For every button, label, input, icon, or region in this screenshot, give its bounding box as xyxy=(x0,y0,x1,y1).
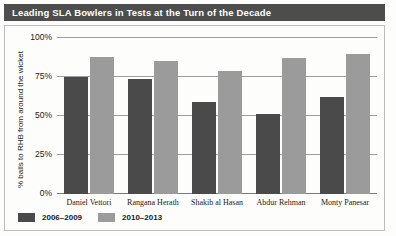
y-axis-tick-label: 75% xyxy=(35,71,52,81)
y-axis-tick-label: 50% xyxy=(35,110,52,120)
bar-group: Monty Panesar xyxy=(313,38,377,194)
bar[interactable] xyxy=(192,102,216,194)
chart-legend: 2006–20092010–2013 xyxy=(18,213,162,222)
bar[interactable] xyxy=(128,79,152,194)
bar-group: Shakib al Hasan xyxy=(185,38,249,194)
y-axis-title: % balls to RHB from around the wicket xyxy=(16,38,30,188)
legend-swatch xyxy=(98,213,115,222)
x-axis-category-label: Rangana Herath xyxy=(121,198,185,207)
y-axis-tick-label: 25% xyxy=(35,149,52,159)
page-title: Leading SLA Bowlers in Tests at the Turn… xyxy=(4,7,271,18)
legend-item[interactable]: 2010–2013 xyxy=(98,213,162,222)
x-axis-category-label: Daniel Vettori xyxy=(57,198,121,207)
legend-swatch xyxy=(18,213,35,222)
bar[interactable] xyxy=(90,57,114,194)
y-axis-tick-label: 0% xyxy=(40,188,52,198)
y-axis-title-label: % balls to RHB from around the wicket xyxy=(16,38,25,188)
bar[interactable] xyxy=(320,97,344,194)
bar-group: Daniel Vettori xyxy=(57,38,121,194)
x-axis-category-label: Monty Panesar xyxy=(313,198,377,207)
x-axis-category-label: Shakib al Hasan xyxy=(185,198,249,207)
chart-page: Leading SLA Bowlers in Tests at the Turn… xyxy=(0,0,396,236)
bar-group: Rangana Herath xyxy=(121,38,185,194)
x-axis-category-label: Abdur Rehman xyxy=(249,198,313,207)
legend-label: 2006–2009 xyxy=(42,213,82,222)
bar[interactable] xyxy=(282,58,306,194)
legend-label: 2010–2013 xyxy=(122,213,162,222)
plot-area: 100%75%50%25%0% Daniel VettoriRangana He… xyxy=(57,38,377,194)
bars-layer: Daniel VettoriRangana HerathShakib al Ha… xyxy=(57,38,377,194)
bar[interactable] xyxy=(64,77,88,194)
y-axis-tick-label: 100% xyxy=(30,32,52,42)
bar[interactable] xyxy=(346,54,370,194)
bar-group: Abdur Rehman xyxy=(249,38,313,194)
bar[interactable] xyxy=(256,114,280,194)
chart-title-bar: Leading SLA Bowlers in Tests at the Turn… xyxy=(4,4,385,21)
bar[interactable] xyxy=(218,71,242,194)
bar[interactable] xyxy=(154,61,178,194)
legend-item[interactable]: 2006–2009 xyxy=(18,213,82,222)
chart-frame: % balls to RHB from around the wicket 10… xyxy=(4,25,385,231)
